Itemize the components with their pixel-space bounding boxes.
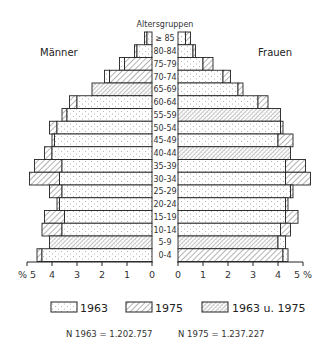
svg-text:1963: 1963 — [80, 302, 108, 315]
legend-item-both: 1963 u. 1975 — [202, 302, 305, 315]
bar-segment — [50, 121, 58, 134]
bar-segment — [110, 70, 153, 83]
bar-segment — [178, 109, 281, 122]
age-group-label: 70-74 — [153, 73, 176, 82]
bar-segment — [178, 121, 281, 134]
bar-segment — [178, 83, 238, 96]
bar-segment — [37, 249, 42, 262]
age-group-label: 5-9 — [158, 238, 171, 247]
bar-segment — [60, 198, 153, 211]
bar-segment — [278, 236, 286, 249]
women-label: Frauen — [258, 47, 292, 58]
age-group-label: 30-34 — [153, 175, 176, 184]
men-label: Männer — [40, 47, 79, 58]
right-tick-label: 3 — [250, 269, 256, 280]
right-tick-label: 2 — [225, 269, 231, 280]
bar-segment — [30, 172, 60, 185]
bar-segment — [291, 185, 294, 198]
bar-segment — [238, 83, 243, 96]
bar-segment — [120, 58, 125, 71]
bar-segment — [178, 134, 278, 147]
bar-segment — [50, 185, 63, 198]
bar-segment — [286, 198, 289, 211]
bar-segment — [35, 160, 63, 173]
age-group-label: 45-49 — [153, 136, 176, 145]
age-group-label: 15-19 — [153, 213, 176, 222]
axis-ticks: % 543210012345 % — [18, 262, 312, 280]
age-group-label: 55-59 — [153, 111, 176, 120]
bar-segment — [77, 96, 152, 109]
left-tick-label: 2 — [99, 269, 105, 280]
bar-segment — [178, 96, 258, 109]
age-group-label: 35-39 — [153, 162, 176, 171]
bar-segment — [223, 70, 231, 83]
bar-segment — [42, 223, 62, 236]
bar-segment — [178, 236, 278, 249]
bar-segment — [42, 249, 152, 262]
bar-segment — [286, 160, 306, 173]
bar-segment — [137, 45, 152, 58]
bar-segment — [57, 121, 152, 134]
bar-segment — [203, 58, 213, 71]
age-group-label: 80-84 — [153, 47, 176, 56]
bar-segment — [283, 249, 288, 262]
bar-segment — [45, 211, 65, 224]
bar-segment — [178, 211, 286, 224]
bar-segment — [178, 185, 291, 198]
age-group-label: 60-64 — [153, 98, 176, 107]
population-pyramid-chart: Altersgruppen Männer Frauen ≥ 8580-8475-… — [0, 0, 329, 359]
bar-segment — [193, 45, 196, 58]
bar-segment — [286, 172, 311, 185]
right-tick-label: 5 % — [294, 269, 312, 280]
age-groups-header: Altersgruppen — [137, 20, 194, 29]
bar-segment — [178, 198, 286, 211]
svg-text:1963 u. 1975: 1963 u. 1975 — [232, 302, 305, 315]
bar-segment — [178, 147, 291, 160]
age-labels: ≥ 8580-8475-7970-7465-6960-6455-5950-544… — [153, 34, 176, 260]
bar-segment — [50, 236, 153, 249]
bar-segment — [281, 223, 291, 236]
age-group-label: 0-4 — [158, 251, 171, 260]
left-tick-label: % 5 — [18, 269, 36, 280]
n-1975: N 1975 = 1.237.227 — [178, 329, 264, 339]
n-1963: N 1963 = 1.202.757 — [66, 329, 152, 339]
bar-segment — [186, 32, 191, 45]
bar-segment — [67, 109, 152, 122]
bar-segment — [55, 134, 153, 147]
bar-segment — [60, 172, 153, 185]
age-group-label: 10-14 — [153, 226, 176, 235]
age-group-label: 25-29 — [153, 187, 176, 196]
bar-segment — [62, 223, 152, 236]
age-group-label: 75-79 — [153, 60, 176, 69]
bar-segment — [62, 185, 152, 198]
legend: 1963 1975 1963 u. 1975 — [51, 302, 305, 315]
bar-segment — [178, 249, 283, 262]
bar-segment — [178, 45, 193, 58]
bar-segment — [278, 134, 293, 147]
age-group-label: 20-24 — [153, 200, 176, 209]
bar-segment — [258, 96, 268, 109]
bar-segment — [178, 70, 223, 83]
bar-segment — [45, 147, 53, 160]
bar-segment — [286, 211, 299, 224]
legend-item-1975: 1975 — [126, 302, 183, 315]
left-tick-label: 3 — [74, 269, 80, 280]
right-tick-label: 1 — [200, 269, 206, 280]
age-group-label: 65-69 — [153, 85, 176, 94]
bar-segment — [65, 211, 153, 224]
bar-segment — [178, 172, 286, 185]
bar-segment — [178, 160, 286, 173]
bar-segment — [52, 147, 152, 160]
right-tick-label: 0 — [175, 269, 181, 280]
bar-segment — [62, 109, 67, 122]
svg-text:1975: 1975 — [155, 302, 183, 315]
bar-segment — [62, 160, 152, 173]
bar-segment — [178, 32, 186, 45]
left-tick-label: 4 — [49, 269, 55, 280]
bar-segment — [92, 83, 152, 96]
age-group-label: 40-44 — [153, 149, 176, 158]
bar-segment — [178, 58, 203, 71]
bar-segment — [147, 32, 152, 45]
bar-segment — [70, 96, 78, 109]
left-tick-label: 1 — [124, 269, 130, 280]
